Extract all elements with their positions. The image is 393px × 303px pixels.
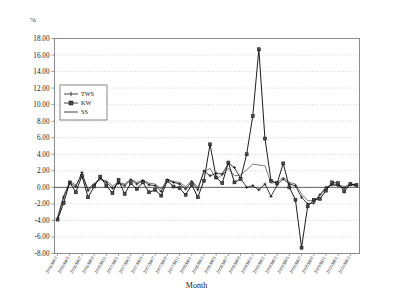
svg-text:4.00: 4.00 <box>37 151 50 159</box>
svg-text:14.00: 14.00 <box>33 68 50 76</box>
plot-area-border <box>55 39 360 254</box>
svg-text:12.00: 12.00 <box>33 85 50 93</box>
svg-text:TWS: TWS <box>81 90 95 97</box>
svg-text:10.00: 10.00 <box>33 101 50 109</box>
svg-text:-4.00: -4.00 <box>35 217 50 225</box>
line-chart: % 18.0016.0014.0012.0010.008.006.004.002… <box>0 0 393 303</box>
y-axis-tick-labels: 18.0016.0014.0012.0010.008.006.004.002.0… <box>33 35 50 258</box>
svg-text:KW: KW <box>81 99 91 106</box>
chart-svg: 18.0016.0014.0012.0010.008.006.004.002.0… <box>0 0 393 303</box>
svg-text:6.00: 6.00 <box>37 134 50 142</box>
svg-text:16.00: 16.00 <box>33 52 50 60</box>
svg-text:-8.00: -8.00 <box>35 250 50 258</box>
x-axis-tick-labels: 2006/M032006/M052006/M072006/M092006/M11… <box>45 254 352 275</box>
x-axis-title: Month <box>0 281 393 290</box>
svg-text:0.00: 0.00 <box>37 184 50 192</box>
chart-legend: TWSKWSS <box>60 85 107 120</box>
svg-text:2.00: 2.00 <box>37 167 50 175</box>
svg-text:SS: SS <box>81 108 88 115</box>
gridlines <box>52 39 360 254</box>
svg-text:-2.00: -2.00 <box>35 200 50 208</box>
svg-text:-6.00: -6.00 <box>35 233 50 241</box>
svg-text:8.00: 8.00 <box>37 118 50 126</box>
series-layer <box>56 48 358 249</box>
svg-text:2010/M03: 2010/M03 <box>337 255 351 275</box>
svg-text:18.00: 18.00 <box>33 35 50 43</box>
